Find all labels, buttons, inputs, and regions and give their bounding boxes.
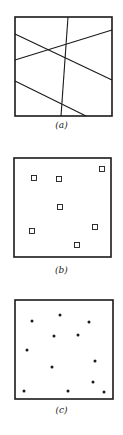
- dot-marker: [31, 320, 34, 323]
- square-marker: [32, 176, 37, 181]
- dot-marker: [94, 360, 97, 363]
- figure-canvas: [0, 0, 123, 435]
- dot-marker: [67, 390, 70, 393]
- panel-frame-0: [15, 17, 112, 116]
- dot-marker: [103, 391, 106, 394]
- caption-c: (c): [0, 405, 123, 415]
- square-marker: [100, 167, 105, 172]
- dot-marker: [88, 321, 91, 324]
- line: [61, 17, 68, 116]
- square-marker: [75, 243, 80, 248]
- square-marker: [58, 205, 63, 210]
- line: [15, 30, 112, 60]
- square-marker: [30, 229, 35, 234]
- caption-a: (a): [0, 120, 123, 130]
- dot-marker: [77, 334, 80, 337]
- dot-marker: [53, 335, 56, 338]
- square-marker: [93, 225, 98, 230]
- dot-marker: [59, 314, 62, 317]
- caption-b: (b): [0, 265, 123, 275]
- dot-marker: [26, 349, 29, 352]
- dot-marker: [23, 390, 26, 393]
- panel-frame-2: [15, 300, 113, 399]
- square-marker: [57, 177, 62, 182]
- dot-marker: [92, 381, 95, 384]
- dot-marker: [51, 366, 54, 369]
- line: [15, 81, 86, 116]
